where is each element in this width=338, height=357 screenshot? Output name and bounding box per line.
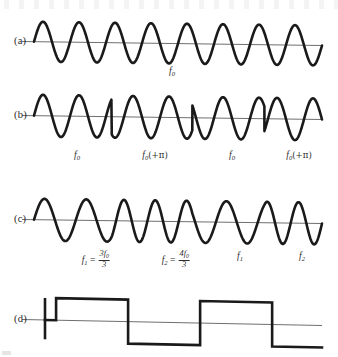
label-equals: = [90, 255, 95, 265]
fraction-denominator: 3 [98, 261, 109, 270]
label-subscript: 0 [232, 154, 235, 161]
label-phase-suffix: (+π) [148, 150, 168, 160]
wave-label-b-f0-first: f0 [74, 150, 80, 161]
label-subscript: 0 [172, 70, 175, 77]
wave-label-c-f2-equation: f2=4f03 [162, 250, 191, 269]
axis-line-b [22, 116, 322, 120]
row-label-b: (b) [14, 109, 27, 120]
numerator-subscript: 0 [106, 253, 109, 259]
wave-label-b-f0-pi-second: f0(+π) [286, 150, 312, 161]
fraction-f2: 4f03 [178, 250, 189, 269]
fraction-f1: 3f03 [98, 250, 109, 269]
axis-line-c [22, 220, 322, 224]
label-subscript: 2 [302, 255, 305, 262]
label-subscript: 0 [77, 154, 80, 161]
row-label-a: (a) [14, 35, 26, 46]
row-label-c: (c) [14, 213, 26, 224]
wave-label-a-f0: f0 [169, 66, 175, 77]
waveform-b-psk [34, 95, 322, 140]
wave-label-c-f2-short: f2 [299, 251, 305, 262]
wave-label-c-f1-short: f1 [237, 251, 243, 262]
axis-line-a [22, 42, 322, 46]
wave-label-b-f0-second: f0 [229, 150, 235, 161]
fraction-denominator: 3 [178, 261, 189, 270]
modulation-waveform-figure: (a) (b) (c) (d) f0 f0 f0(+π) f0 f0(+π) f… [0, 0, 338, 357]
wave-label-c-f1-equation: f1=3f03 [82, 250, 111, 269]
label-phase-suffix: (+π) [292, 150, 312, 160]
waveform-a-carrier [34, 22, 322, 66]
row-label-d: (d) [14, 313, 27, 324]
label-subscript: 1 [84, 259, 87, 266]
label-equals: = [170, 255, 175, 265]
waveform-canvas [0, 0, 338, 357]
waveform-c-fsk [34, 199, 322, 245]
label-subscript: 2 [164, 259, 167, 266]
axis-line-d [22, 320, 322, 326]
wave-label-b-f0-pi-first: f0(+π) [142, 150, 168, 161]
fraction-numerator: 3f0 [98, 250, 109, 260]
fraction-numerator: 4f0 [178, 250, 189, 260]
label-subscript: 1 [240, 255, 243, 262]
numerator-subscript: 0 [186, 253, 189, 259]
